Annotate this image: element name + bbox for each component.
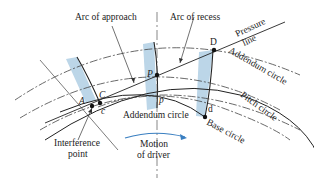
label-addendum-circle-top: Addendum circle <box>227 45 289 87</box>
point-D-dot <box>212 48 216 52</box>
label-arc-of-recess: Arc of recess <box>170 12 220 22</box>
label-of-driver: of driver <box>137 150 171 160</box>
point-d-dot <box>203 115 207 119</box>
label-interference-point: point <box>68 149 88 159</box>
label-arc-of-approach: Arc of approach <box>75 12 137 22</box>
label-D: D <box>210 37 217 47</box>
label-A: A <box>78 96 85 106</box>
leader-interference <box>78 108 92 140</box>
label-pitch-circle: Pitch circle <box>239 90 280 123</box>
label-P: P <box>146 69 153 79</box>
label-C: C <box>99 90 106 100</box>
label-p: p <box>158 95 164 105</box>
point-A-dot <box>90 104 94 108</box>
arrowhead-recess <box>179 58 183 63</box>
arrowhead-interference <box>88 108 92 113</box>
gear-action-diagram: A C c P p D d Arc of approach Arc of rec… <box>0 0 314 180</box>
label-d: d <box>208 104 213 114</box>
point-C-dot <box>98 101 102 105</box>
label-base-circle: Base circle <box>205 117 247 146</box>
label-addendum-circle-bottom: Addendum circle <box>123 110 189 120</box>
leader-arc-recess <box>180 17 194 63</box>
point-P-dot <box>155 73 159 77</box>
motion-arrow <box>125 133 185 138</box>
label-interference: Interference <box>54 138 100 148</box>
leader-arc-approach <box>112 26 134 83</box>
arrowhead-approach <box>131 78 135 83</box>
label-motion: Motion <box>140 139 168 149</box>
motion-arrowhead <box>180 134 187 140</box>
